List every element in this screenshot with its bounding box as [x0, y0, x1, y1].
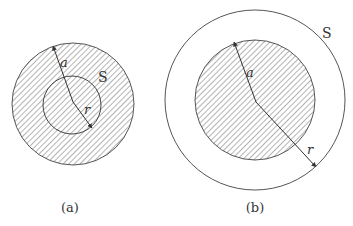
label-r: r — [84, 102, 91, 117]
panel-a: a S r (a) — [12, 43, 134, 215]
label-r: r — [307, 142, 314, 157]
label-a: a — [246, 65, 254, 80]
caption-b: (b) — [246, 200, 264, 215]
caption-a: (a) — [61, 200, 79, 215]
label-surface-s: S — [322, 25, 332, 41]
gauss-law-diagram: a S r (a) a r S (b) — [0, 0, 353, 226]
charged-sphere-a — [12, 43, 134, 165]
label-surface-s: S — [98, 69, 108, 85]
label-a: a — [60, 55, 68, 70]
panel-b: a r S (b) — [165, 10, 345, 215]
